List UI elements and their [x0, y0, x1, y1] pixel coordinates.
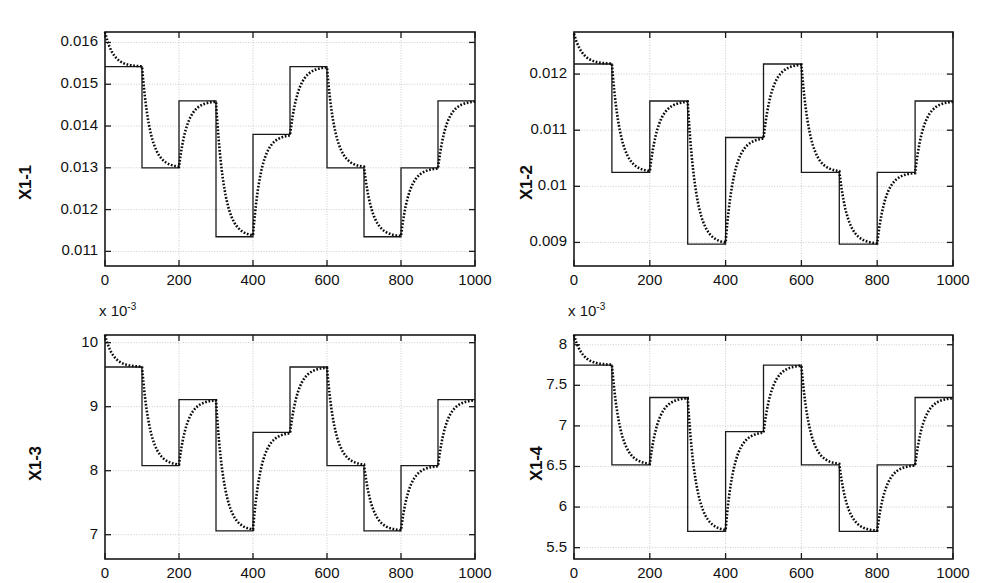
x-tick-label: 800: [865, 271, 890, 288]
x-tick-label: 400: [240, 271, 265, 288]
exponent-label-x1-4: x 10-3: [568, 301, 605, 319]
reference-step-line: [105, 367, 475, 531]
exponent-label-x1-3: x 10-3: [99, 301, 136, 319]
reference-step-line: [574, 64, 953, 244]
x-tick-label: 1000: [936, 271, 969, 288]
y-tick-label: 0.011: [531, 120, 567, 137]
x-tick-label: 800: [388, 564, 413, 581]
plot-panel-x1-1: X1-1 0.0110.0120.0130.0140.0150.01602004…: [0, 0, 500, 291]
x-tick-label: 200: [637, 271, 662, 288]
response-step-line: [574, 335, 953, 531]
x-tick-label: 200: [166, 271, 191, 288]
y-axis-label-x1-1: X1-1: [16, 165, 36, 200]
plot-area-x1-2: 0.0090.010.0110.01202004006008001000: [501, 0, 1001, 291]
y-tick-label: 0.009: [529, 232, 567, 249]
y-tick-label: 7.5: [546, 375, 567, 392]
y-tick-label: 7: [90, 525, 98, 542]
x-tick-label: 0: [570, 564, 578, 581]
y-axis-label-x1-4: X1-4: [527, 446, 547, 481]
y-tick-label: 7: [559, 416, 567, 433]
y-axis-label-x1-2: X1-2: [517, 165, 537, 200]
plot-area-x1-3: 7891002004006008001000: [0, 291, 500, 583]
reference-step-line: [105, 67, 475, 237]
y-tick-label: 0.012: [529, 64, 567, 81]
y-tick-label: 0.016: [60, 32, 98, 49]
x-tick-label: 1000: [936, 564, 969, 581]
x-tick-label: 1000: [458, 564, 491, 581]
y-axis-label-x1-3: X1-3: [26, 446, 46, 481]
plot-area-x1-1: 0.0110.0120.0130.0140.0150.0160200400600…: [0, 0, 500, 291]
y-tick-label: 8: [559, 335, 567, 352]
x-tick-label: 1000: [458, 271, 491, 288]
y-tick-label: 0.013: [60, 158, 98, 175]
x-tick-label: 600: [789, 271, 814, 288]
x-tick-label: 0: [570, 271, 578, 288]
plot-panel-x1-2: X1-2 0.0090.010.0110.0120200400600800100…: [501, 0, 1001, 291]
y-tick-label: 0.01: [538, 176, 567, 193]
y-tick-label: 0.011: [62, 241, 98, 258]
y-tick-label: 6: [559, 497, 567, 514]
y-tick-label: 0.015: [60, 74, 98, 91]
x-tick-label: 400: [713, 271, 738, 288]
x-tick-label: 400: [240, 564, 265, 581]
x-tick-label: 800: [388, 271, 413, 288]
reference-step-line: [574, 365, 953, 531]
x-tick-label: 200: [637, 564, 662, 581]
figure-canvas: X1-1 0.0110.0120.0130.0140.0150.01602004…: [0, 0, 1001, 583]
y-tick-label: 9: [90, 397, 98, 414]
x-tick-label: 600: [314, 271, 339, 288]
y-tick-label: 10: [81, 333, 98, 350]
plot-panel-x1-3: x 10-3 X1-3 7891002004006008001000: [0, 291, 500, 583]
x-tick-label: 800: [865, 564, 890, 581]
y-tick-label: 6.5: [546, 456, 567, 473]
y-tick-label: 0.014: [60, 116, 98, 133]
x-tick-label: 0: [101, 564, 109, 581]
plot-panel-x1-4: x 10-3 X1-4 5.566.577.580200400600800100…: [501, 291, 1001, 583]
y-tick-label: 0.012: [60, 200, 98, 217]
y-tick-label: 5.5: [546, 538, 567, 555]
x-tick-label: 0: [101, 271, 109, 288]
x-tick-label: 600: [789, 564, 814, 581]
x-tick-label: 200: [166, 564, 191, 581]
plot-area-x1-4: 5.566.577.5802004006008001000: [501, 291, 1001, 583]
x-tick-label: 600: [314, 564, 339, 581]
y-tick-label: 8: [90, 461, 98, 478]
x-tick-label: 400: [713, 564, 738, 581]
